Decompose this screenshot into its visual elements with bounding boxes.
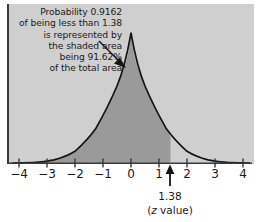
- x-tick-label: −1: [90, 167, 116, 181]
- x-tick-label: 4: [230, 167, 256, 181]
- annotation-line: of being less than 1.38: [10, 17, 122, 28]
- x-tick-label: 1: [146, 167, 172, 181]
- z-marker-value: 1.38: [135, 190, 205, 202]
- annotation-line: Probability 0.9162: [10, 6, 122, 17]
- x-tick-label: −3: [34, 167, 60, 181]
- x-tick-label: −4: [6, 167, 32, 181]
- x-tick-label: −2: [62, 167, 88, 181]
- x-tick-label: 0: [118, 167, 144, 181]
- x-tick-label: 2: [174, 167, 200, 181]
- normal-distribution-figure: Probability 0.9162 of being less than 1.…: [0, 0, 258, 222]
- annotation-line: is represented by: [10, 29, 122, 40]
- z-caption-suffix: value): [157, 204, 193, 216]
- annotation-line: being 91.62%: [10, 51, 122, 62]
- z-marker-caption: (z value): [125, 204, 215, 216]
- probability-annotation: Probability 0.9162 of being less than 1.…: [10, 6, 122, 74]
- annotation-line: of the total area: [10, 62, 122, 73]
- annotation-line: the shaded area: [10, 40, 122, 51]
- x-tick-label: 3: [202, 167, 228, 181]
